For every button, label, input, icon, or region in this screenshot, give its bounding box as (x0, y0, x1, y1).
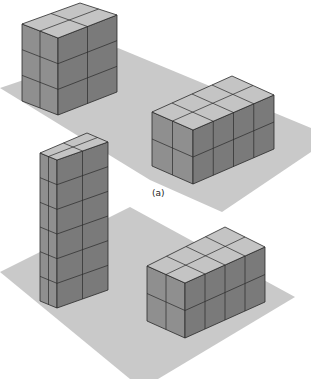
figure-label: (a) (152, 188, 165, 198)
cube-stacks-figure: (a) (0, 0, 311, 379)
lower-left-tower (40, 133, 108, 308)
